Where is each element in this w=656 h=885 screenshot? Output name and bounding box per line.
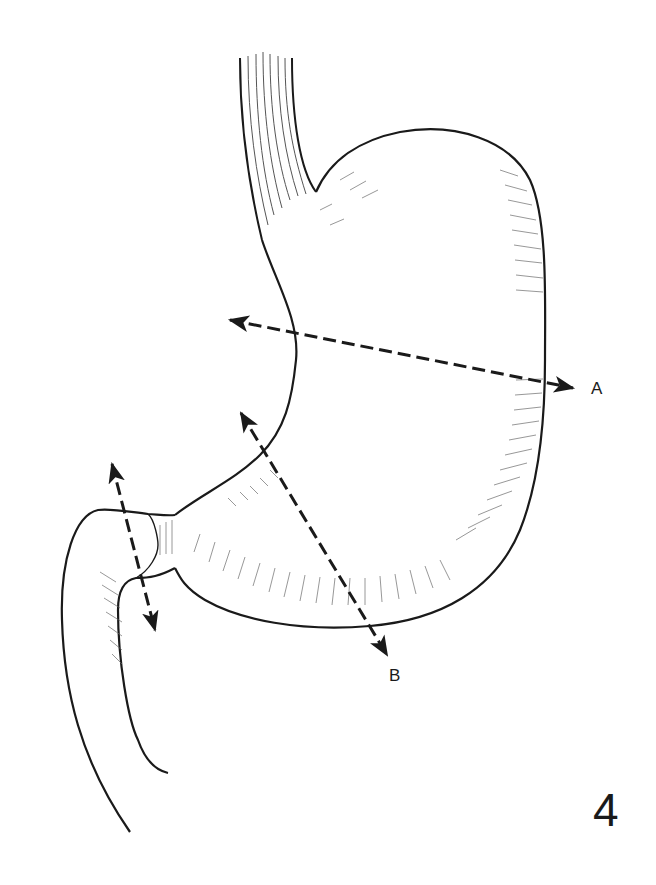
stomach-diagram: A B 4 <box>0 0 656 885</box>
stomach-illustration <box>0 0 656 885</box>
arrow-b <box>241 413 387 655</box>
label-b: B <box>389 666 400 686</box>
label-a: A <box>591 379 602 399</box>
esophagus <box>240 52 316 240</box>
figure-number: 4 <box>593 783 619 837</box>
arrow-a <box>230 320 573 388</box>
dashed-arrows <box>112 320 573 655</box>
shading-hatch <box>100 170 543 664</box>
stomach-outline <box>62 129 545 832</box>
